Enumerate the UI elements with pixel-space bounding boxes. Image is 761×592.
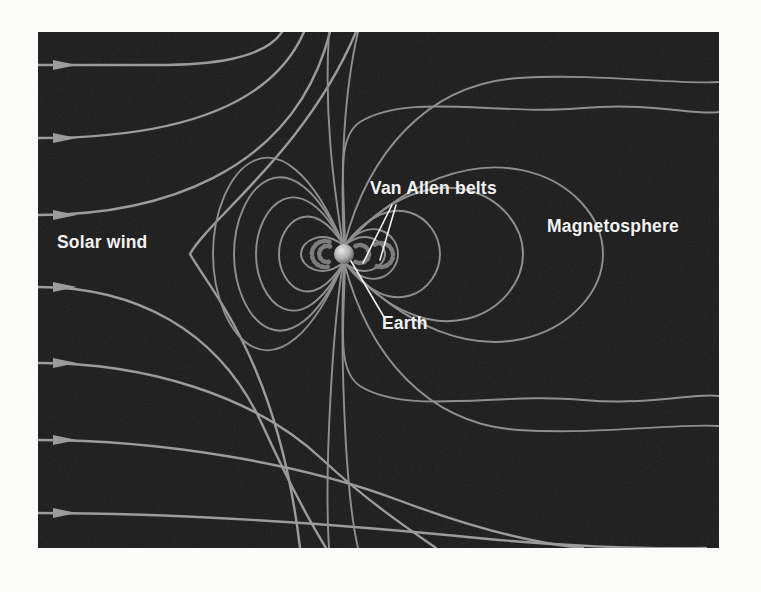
solar-wind-label: Solar wind	[57, 232, 147, 252]
scan-grain-texture	[38, 32, 719, 548]
diagram-canvas: Solar wind Van Allen belts Magnetosphere…	[38, 32, 719, 548]
page: { "figure": { "labels": { "solar_wind": …	[0, 0, 761, 592]
magnetosphere-diagram: Solar wind Van Allen belts Magnetosphere…	[38, 32, 719, 548]
van-allen-label: Van Allen belts	[370, 178, 497, 198]
magnetosphere-label: Magnetosphere	[547, 216, 679, 236]
earth-label: Earth	[382, 313, 428, 333]
